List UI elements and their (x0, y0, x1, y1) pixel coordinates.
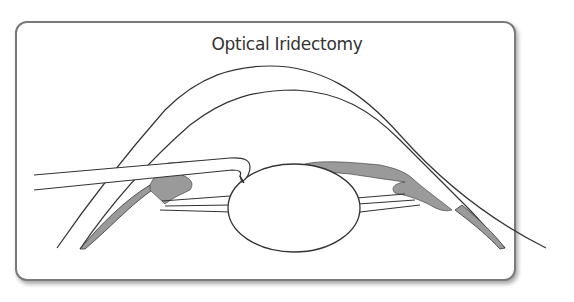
sclera-band-left (80, 185, 155, 249)
lens (228, 164, 360, 252)
surgical-instrument (34, 158, 250, 190)
eye-cross-section-illustration (0, 0, 574, 302)
sclera-band-right (455, 205, 505, 249)
